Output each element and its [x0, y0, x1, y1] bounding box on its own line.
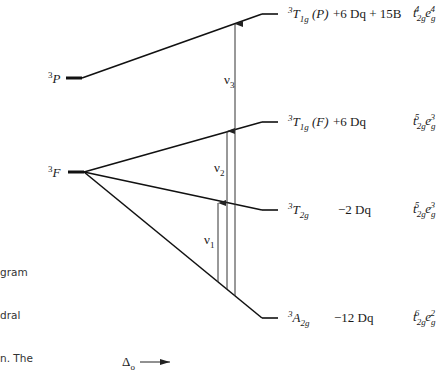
energy-3T1g-F: +6 Dq [333, 114, 366, 130]
config-3T2g: t2g5eg3 [413, 200, 435, 219]
term-label-3T1g-P: 3T1g (P) [288, 5, 329, 24]
transition-label-nu1: ν1 [204, 232, 214, 250]
energy-3T1g-P: +6 Dq + 15B [333, 6, 401, 22]
term-label-3A2g: 3A2g [288, 309, 309, 328]
config-3A2g: t2g6eg2 [413, 308, 435, 327]
energy-3A2g: −12 Dq [334, 310, 373, 326]
term-label-3T2g: 3T2g [288, 201, 309, 220]
energy-3T2g: −2 Dq [338, 202, 371, 218]
free-ion-term-3P: 3P [48, 70, 60, 87]
free-ion-term-3F: 3F [48, 164, 60, 181]
term-label-3T1g-F: 3T1g (F) [288, 113, 329, 132]
correlation-diagram-lines [0, 0, 444, 385]
config-3T1g-P: t2g4eg4 [413, 4, 435, 23]
delta-o-axis-label: Δo [122, 354, 135, 372]
transition-label-nu3: ν3 [224, 72, 234, 90]
transition-label-nu2: ν2 [214, 160, 224, 178]
config-3T1g-F: t2g5eg3 [413, 112, 435, 131]
